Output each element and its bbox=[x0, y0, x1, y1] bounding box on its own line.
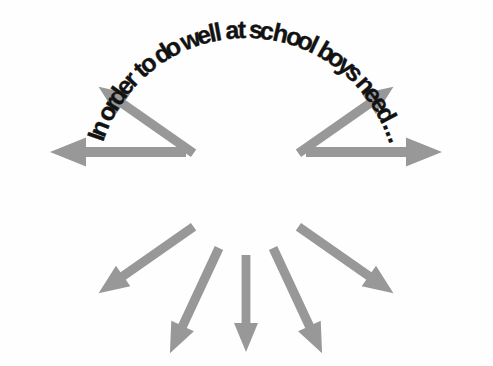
arrow-down-right-shape bbox=[291, 216, 400, 303]
arrow-left-shape bbox=[50, 138, 186, 167]
arrow-down-left bbox=[91, 216, 200, 303]
curved-heading-char: t bbox=[237, 15, 247, 43]
arrow-down-right bbox=[291, 216, 400, 303]
arrow-down-right-low bbox=[262, 243, 334, 359]
arrow-down bbox=[234, 255, 258, 352]
radial-arrow-diagram: Inordertodowellatschoolboysneed... bbox=[0, 0, 493, 366]
arrow-down-left-shape bbox=[91, 216, 200, 303]
arrow-down-right-low-shape bbox=[262, 243, 334, 359]
arrow-left bbox=[50, 138, 186, 167]
diagram-canvas: Inordertodowellatschoolboysneed... bbox=[0, 0, 493, 366]
arrow-down-shape bbox=[234, 255, 258, 352]
arrow-down-left-low-shape bbox=[159, 243, 231, 359]
arrow-right-shape bbox=[306, 138, 442, 167]
curved-heading: Inordertodowellatschoolboysneed... bbox=[81, 15, 411, 146]
arrow-right bbox=[306, 138, 442, 167]
arrow-down-left-low bbox=[159, 243, 231, 359]
